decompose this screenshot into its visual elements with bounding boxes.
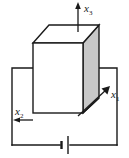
- figure-container: x3 x2 x1: [0, 0, 129, 158]
- battery-symbol: [62, 136, 69, 154]
- axis-x2-subscript: 2: [20, 112, 24, 120]
- axis-x3-arrowhead: [75, 2, 81, 9]
- rectangular-block: [33, 25, 99, 113]
- axis-x2: x2: [13, 105, 33, 123]
- axis-x1-label: x1: [110, 88, 120, 103]
- axis-x3-label: x3: [83, 2, 93, 17]
- block-front-face: [33, 43, 83, 113]
- axis-x1-subscript: 1: [116, 95, 120, 103]
- block-circuit-figure: x3 x2 x1: [0, 0, 129, 158]
- axis-x3-subscript: 3: [89, 9, 93, 17]
- axis-x2-label: x2: [14, 105, 24, 120]
